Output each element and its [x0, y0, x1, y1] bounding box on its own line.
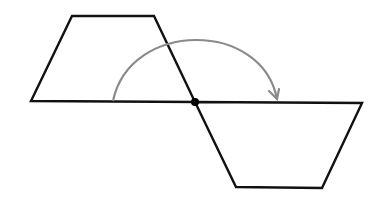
rotation-arc-arrow: [113, 40, 277, 101]
center-of-rotation-point: [191, 98, 199, 106]
original-trapezoid: [31, 16, 195, 102]
rotated-trapezoid: [195, 102, 362, 188]
rotation-diagram: [0, 0, 381, 204]
